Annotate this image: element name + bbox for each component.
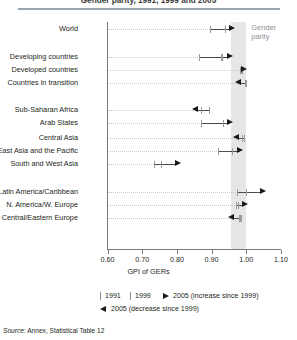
range-line [238,192,262,193]
tick-1999-marker [232,148,233,155]
legend-label-2005-increase: 2005 (increase since 1999) [173,292,259,300]
leader-line [108,123,202,124]
leader-line [108,57,200,58]
gender-parity-line2: parity [251,32,276,41]
range-line [154,164,177,165]
x-tick [246,250,247,254]
tick-1999-marker [225,26,226,33]
range-line [200,57,229,58]
x-tick [177,250,178,254]
category-label: East Asia and the Pacific [0,147,78,155]
legend-label-1999: 1999 [135,292,151,300]
chart-title-clipped: Gender parity, 1991, 1999 and 2005 [0,0,297,5]
range-line [202,123,229,124]
leader-line [108,110,196,111]
x-tick [281,250,282,254]
leader-line [108,164,155,165]
tick-1991-marker [237,189,238,196]
legend-row-1: 1991 1999 2005 (increase since 1999) [0,291,297,303]
category-label: South and West Asia [10,160,78,168]
tick-1999-marker [239,215,240,222]
marker-2005-decrease-arrow-icon [233,134,239,140]
source-note: Source: Annex, Statistical Table 12 [3,327,104,334]
category-label: Arab States [40,119,78,127]
tick-1991-marker [209,107,210,114]
legend-left-arrow-icon [100,306,106,312]
legend-right-arrow-icon [163,293,169,299]
legend-tick-1991-icon [100,292,101,300]
x-tick [142,250,143,254]
tick-1991-marker [240,215,241,222]
gender-parity-label: Gender parity [251,23,276,42]
tick-1991-marker [244,135,245,142]
tick-1991-marker [199,54,200,61]
marker-2005-decrease-arrow-icon [228,214,234,220]
category-label: Central Asia [39,134,78,142]
legend-label-1991: 1991 [105,292,121,300]
leader-line [108,192,238,193]
x-tick [212,250,213,254]
x-tick-label: 0.80 [160,255,194,264]
category-label: Developing countries [10,53,78,61]
chart-title: Gender parity, 1991, 1999 and 2005 [0,0,297,5]
leader-line [108,138,237,139]
tick-1999-marker [245,80,246,87]
x-tick-label: 0.60 [91,255,125,264]
marker-2005-increase-arrow-icon [227,119,233,125]
leader-line [108,70,242,71]
legend-tick-1999-icon [130,292,131,300]
tick-1991-marker [154,161,155,168]
source-text: Annex, Statistical Table 12 [26,327,105,334]
category-label: Latin America/Caribbean [0,188,78,196]
source-prefix: Source: [3,327,26,334]
x-tick-label: 1.00 [229,255,263,264]
leader-line [108,218,232,219]
gender-parity-line1: Gender [251,23,276,32]
tick-1991-marker [236,202,237,209]
category-label: Countries in transition [7,79,78,87]
marker-2005-increase-arrow-icon [227,53,233,59]
range-line [196,110,210,111]
legend-label-2005-decrease: 2005 (decrease since 1999) [111,305,199,313]
marker-2005-increase-arrow-icon [260,188,266,194]
chart-plot-area: WorldDeveloping countriesDeveloped count… [0,20,297,256]
tick-1991-marker [218,148,219,155]
tick-1991-marker [210,26,211,33]
x-tick-label: 1.10 [264,255,297,264]
leader-line [108,83,239,84]
category-label: Central/Eastern Europe [2,214,78,222]
category-label: Sub-Saharan Africa [15,106,78,114]
tick-1999-marker [161,161,162,168]
marker-2005-increase-arrow-icon [229,25,235,31]
tick-1991-marker [201,120,202,127]
title-rule [18,8,280,10]
range-line [219,151,239,152]
marker-2005-increase-arrow-icon [242,201,248,207]
x-axis-title: GPI of GERs [0,267,297,276]
x-tick-label: 0.70 [125,255,159,264]
chart-legend: 1991 1999 2005 (increase since 1999) 200… [0,291,297,315]
marker-2005-increase-arrow-icon [241,66,247,72]
leader-line [108,151,219,152]
x-tick-label: 0.90 [195,255,229,264]
tick-1999-marker [246,189,247,196]
tick-1999-marker [242,135,243,142]
tick-1999-marker [223,120,224,127]
category-label: World [59,25,78,33]
marker-2005-increase-arrow-icon [175,160,181,166]
tick-1999-marker [201,107,202,114]
range-line [210,29,230,30]
tick-1999-marker [238,202,239,209]
category-label: N. America/W. Europe [6,201,78,209]
category-label: Developed countries [11,66,78,74]
leader-line [108,205,237,206]
marker-2005-increase-arrow-icon [237,147,243,153]
marker-2005-decrease-arrow-icon [192,106,198,112]
legend-row-2: 2005 (decrease since 1999) [0,303,297,315]
x-tick [108,250,109,254]
marker-2005-decrease-arrow-icon [235,79,241,85]
leader-line [108,29,211,30]
tick-1999-marker [221,54,222,61]
